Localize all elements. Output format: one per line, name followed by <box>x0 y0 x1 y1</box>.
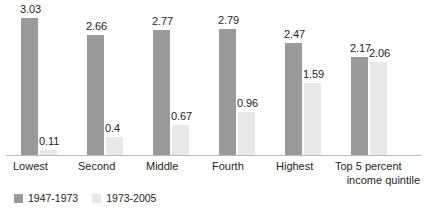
bar-value-label: 2.47 <box>284 29 305 40</box>
bar[interactable] <box>21 18 38 155</box>
x-axis-line <box>6 155 421 156</box>
legend-swatch-icon-1 <box>92 194 101 203</box>
bar-value-label: 2.06 <box>369 48 390 59</box>
bar[interactable] <box>87 35 104 155</box>
bar-chart: 3.030.112.660.42.770.672.790.962.471.592… <box>0 0 429 215</box>
bar-value-label: 2.17 <box>350 43 371 54</box>
bar-value-label: 0.67 <box>171 111 192 122</box>
legend-label-1: 1973-2005 <box>106 193 156 204</box>
bar[interactable] <box>153 30 170 155</box>
legend-label-0: 1947-1973 <box>28 193 78 204</box>
x-axis-category-label: Lowest <box>13 160 48 173</box>
x-axis-category-label: Fourth <box>212 160 244 173</box>
bar-value-label: 0.11 <box>39 136 59 147</box>
bar[interactable] <box>172 125 189 155</box>
legend-item-1[interactable]: 1973-2005 <box>92 193 156 204</box>
bar-value-label: 0.4 <box>105 123 120 134</box>
x-axis-category-label: Top 5 percent <box>335 160 402 173</box>
bar-value-label: 1.59 <box>303 69 324 80</box>
x-axis-category-label: Second <box>78 160 115 173</box>
bar[interactable] <box>219 29 236 155</box>
bar-value-label: 0.96 <box>237 98 258 109</box>
chart-legend: 1947-1973 1973-2005 <box>14 193 156 204</box>
bar-value-label: 2.66 <box>86 21 107 32</box>
plot-area: 3.030.112.660.42.770.672.790.962.471.592… <box>0 0 429 156</box>
bar-value-label: 2.79 <box>218 15 239 26</box>
legend-swatch-icon-0 <box>14 194 23 203</box>
x-axis-title: income quintile <box>347 174 420 187</box>
bar[interactable] <box>238 112 255 155</box>
x-axis-category-label: Middle <box>146 160 178 173</box>
bar[interactable] <box>40 150 57 155</box>
bar[interactable] <box>370 62 387 155</box>
bar-value-label: 2.77 <box>152 16 173 27</box>
bar[interactable] <box>351 57 368 155</box>
x-axis-category-label: Highest <box>276 160 313 173</box>
bar[interactable] <box>106 137 123 155</box>
bar-value-label: 3.03 <box>20 4 41 15</box>
bar[interactable] <box>304 83 321 155</box>
legend-item-0[interactable]: 1947-1973 <box>14 193 78 204</box>
bar[interactable] <box>285 43 302 155</box>
